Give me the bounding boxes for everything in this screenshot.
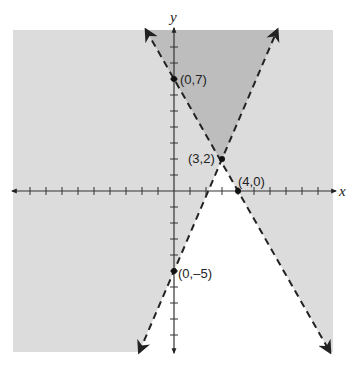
point-label-0-neg5: (0,–5) (178, 266, 212, 281)
point-label-3-2: (3,2) (188, 151, 215, 166)
point-label-0-7: (0,7) (180, 72, 207, 87)
point-marker (219, 156, 225, 162)
inequality-graph: y x (0,7) (3,2) (4,0) (0,–5) (0, 0, 360, 367)
point-marker (171, 76, 177, 82)
graph-figure: y x (0,7) (3,2) (4,0) (0,–5) (0, 0, 360, 367)
point-label-4-0: (4,0) (238, 174, 265, 189)
y-axis-label: y (168, 9, 177, 25)
x-axis-label: x (338, 183, 346, 199)
point-marker (171, 268, 177, 274)
